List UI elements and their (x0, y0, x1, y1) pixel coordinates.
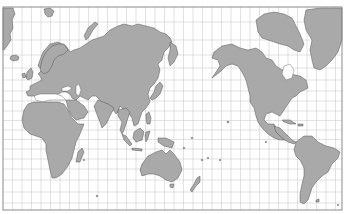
world-map (0, 0, 348, 214)
iceland (10, 55, 19, 61)
tasmania (170, 184, 174, 188)
hispaniola (298, 124, 303, 126)
ireland (22, 73, 26, 78)
